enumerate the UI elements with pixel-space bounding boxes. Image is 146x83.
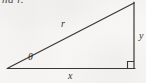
right-angle-marker bbox=[128, 62, 135, 69]
label-base-x: x bbox=[68, 71, 72, 81]
hypotenuse-line bbox=[8, 3, 134, 68]
label-hypotenuse-r: r bbox=[61, 19, 65, 29]
label-angle-theta: θ bbox=[28, 52, 33, 62]
triangle-drawing bbox=[0, 0, 146, 83]
label-vertical-y: y bbox=[139, 31, 143, 41]
right-triangle-figure: nd r. r x y θ bbox=[0, 0, 146, 83]
